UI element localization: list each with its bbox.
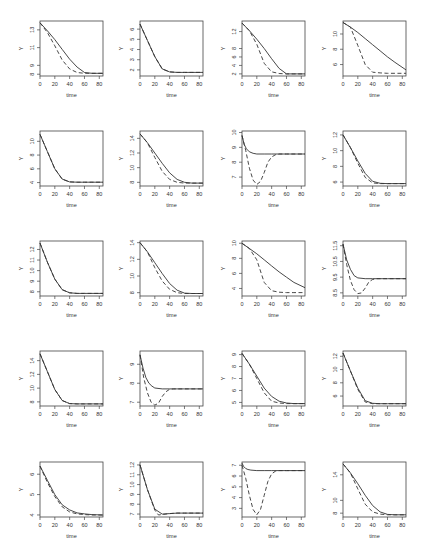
x-tick-label: 80: [399, 411, 405, 417]
y-tick-label: 7: [231, 464, 237, 467]
x-tick-label: 40: [67, 411, 73, 417]
x-axis-label: time: [268, 202, 278, 208]
panel-20: 02040608081014timeY: [321, 462, 406, 539]
x-tick-label: 40: [67, 301, 73, 307]
y-tick-label: 9: [129, 363, 135, 366]
x-tick-label: 60: [181, 191, 187, 197]
x-tick-label: 0: [341, 301, 344, 307]
x-tick-label: 0: [38, 191, 41, 197]
x-tick-label: 80: [298, 411, 304, 417]
solid-line: [40, 23, 103, 74]
dashed-line: [140, 24, 203, 72]
y-tick-label: 5: [231, 485, 237, 488]
plot-frame: [40, 351, 103, 406]
x-axis-label: time: [66, 422, 76, 428]
x-tick-label: 20: [52, 81, 58, 87]
x-tick-label: 80: [196, 411, 202, 417]
x-tick-label: 40: [269, 191, 275, 197]
x-tick-label: 80: [96, 411, 102, 417]
y-tick-label: 12: [29, 246, 35, 252]
y-tick-label: 8: [129, 181, 135, 184]
dashed-line: [343, 353, 406, 404]
x-tick-label: 60: [384, 522, 390, 528]
x-tick-label: 20: [254, 411, 260, 417]
y-tick-label: 2: [231, 72, 237, 75]
dashed-line: [40, 354, 103, 404]
x-tick-label: 80: [399, 522, 405, 528]
x-tick-label: 0: [341, 522, 344, 528]
y-tick-label: 9: [29, 64, 35, 67]
y-tick-label: 8: [231, 257, 237, 260]
x-tick-label: 40: [269, 411, 275, 417]
y-tick-label: 4: [231, 64, 237, 67]
x-tick-label: 60: [81, 411, 87, 417]
y-tick-label: 8: [29, 154, 35, 157]
x-tick-label: 60: [384, 411, 390, 417]
y-tick-label: 10: [332, 148, 338, 154]
x-tick-label: 40: [269, 81, 275, 87]
panel-3: 020406080246812timeY: [220, 21, 305, 98]
x-tick-label: 0: [138, 411, 141, 417]
x-tick-label: 60: [81, 522, 87, 528]
solid-line: [140, 134, 203, 183]
y-tick-label: 8: [129, 503, 135, 506]
y-tick-label: 10: [231, 240, 237, 246]
solid-line: [242, 463, 305, 471]
solid-line: [40, 243, 103, 293]
y-tick-label: 9: [231, 353, 237, 356]
plot-frame: [40, 462, 103, 517]
x-tick-label: 0: [341, 411, 344, 417]
y-tick-label: 6: [332, 63, 338, 66]
y-axis-label: Y: [118, 487, 124, 491]
y-axis-label: Y: [321, 156, 327, 160]
x-tick-label: 60: [181, 301, 187, 307]
small-multiples-grid: 020406080891113timeY02040608023456timeY0…: [0, 0, 426, 555]
y-tick-label: 6: [231, 389, 237, 392]
x-tick-label: 0: [240, 411, 243, 417]
y-tick-label: 11.5: [332, 241, 338, 251]
dashed-line: [40, 243, 103, 293]
y-axis-label: Y: [220, 266, 226, 270]
y-tick-label: 14: [129, 135, 135, 141]
y-tick-label: 4: [231, 287, 237, 290]
y-tick-label: 6: [332, 181, 338, 184]
x-axis-label: time: [166, 422, 176, 428]
x-tick-label: 80: [96, 81, 102, 87]
x-tick-label: 60: [181, 411, 187, 417]
y-tick-label: 9: [231, 146, 237, 149]
solid-line: [40, 354, 103, 404]
y-tick-label: 4: [231, 496, 237, 499]
x-axis-label: time: [268, 312, 278, 318]
plot-frame: [40, 241, 103, 296]
y-tick-label: 8: [29, 400, 35, 403]
solid-line: [140, 355, 203, 389]
solid-line: [242, 23, 305, 74]
dashed-line: [40, 466, 103, 515]
dashed-line: [242, 23, 305, 74]
plot-frame: [343, 462, 406, 517]
panel-10: 0204060808101214timeY: [118, 240, 203, 318]
dashed-line: [242, 353, 305, 403]
x-tick-label: 20: [355, 191, 361, 197]
y-tick-label: 14: [129, 240, 135, 246]
x-tick-label: 20: [254, 522, 260, 528]
panel-11: 02040608046810timeY: [220, 240, 305, 318]
y-tick-label: 4: [29, 181, 35, 184]
y-tick-label: 13: [29, 27, 35, 33]
dashed-line: [343, 135, 406, 184]
y-tick-label: 2: [129, 68, 135, 71]
x-axis-label: time: [166, 202, 176, 208]
x-tick-label: 0: [240, 522, 243, 528]
x-axis-label: time: [268, 533, 278, 539]
x-tick-label: 80: [298, 301, 304, 307]
x-tick-label: 40: [67, 81, 73, 87]
x-tick-label: 20: [52, 191, 58, 197]
x-tick-label: 60: [181, 81, 187, 87]
y-tick-label: 10: [332, 31, 338, 37]
solid-line: [343, 464, 406, 515]
y-tick-label: 12: [129, 256, 135, 262]
y-tick-label: 6: [231, 272, 237, 275]
x-tick-label: 0: [138, 191, 141, 197]
x-tick-label: 60: [283, 411, 289, 417]
dashed-line: [140, 355, 203, 405]
